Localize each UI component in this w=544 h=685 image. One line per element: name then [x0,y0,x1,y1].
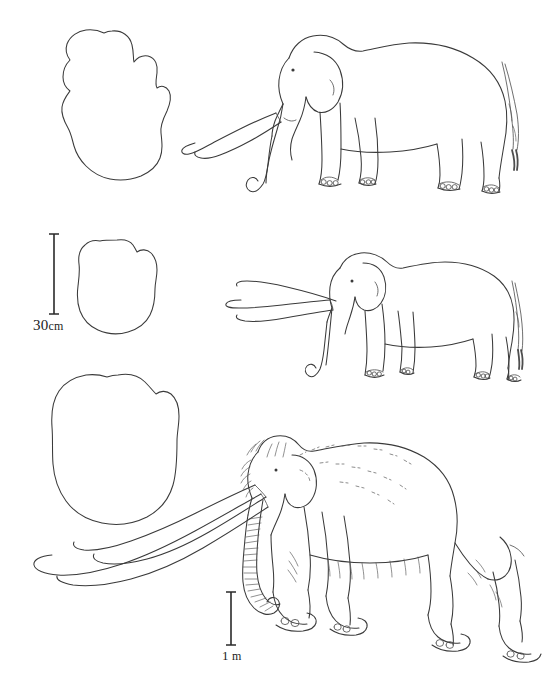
scale-label-30cm: 30cm [33,317,63,334]
eye-middle [351,280,354,283]
scale-label-1m: 1 m [222,648,241,664]
hair-texture-rump [468,560,502,607]
trunk-rings [243,517,273,611]
illustration-canvas [0,0,544,685]
scale-value-30: 30 [33,317,48,333]
elephant-figure-middle [226,253,523,382]
scale-bar-1m [226,592,236,645]
scale-bar-30cm [49,234,59,314]
footprint-outline-bottom [52,374,179,524]
mammoth-figure-bottom [34,436,541,662]
footprint-outline-middle [77,240,157,334]
hair-texture-back [300,445,411,504]
illustration-plate: 30cm 1 m [0,0,544,685]
eye-bottom [275,469,278,472]
scale-value-1: 1 [222,648,229,663]
elephant-figure-top [182,35,519,193]
scale-unit-cm: cm [48,319,63,333]
scale-unit-m-text: m [232,649,242,663]
footprint-outline-top [62,30,171,180]
eye-top [291,68,294,71]
